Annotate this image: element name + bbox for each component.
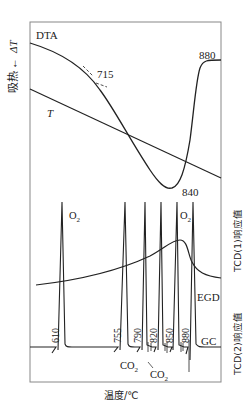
dta-label: DTA	[36, 29, 58, 41]
svg-text:ΔT: ΔT	[7, 40, 19, 54]
gc-label: GC	[201, 335, 216, 347]
peak-label-880: 880	[180, 328, 191, 343]
thermal-analysis-chart: 吸热 ← ΔT TCD(1)响应值 TCD(2)响应值 DTA T 715 88…	[0, 0, 250, 419]
o2-label-right: O2	[180, 210, 192, 224]
co2-leader	[148, 362, 153, 368]
tangent-mark	[83, 66, 93, 76]
x-axis-label: 温度/℃	[104, 389, 139, 401]
co2-label-b: CO2	[150, 369, 169, 383]
y-axis-right-lower-label: TCD(2)响应值	[232, 312, 243, 376]
gc-noise-ticks	[148, 340, 189, 372]
peak-label-820: 820	[148, 328, 159, 343]
peak-label-610: 610	[50, 328, 61, 343]
t-line	[30, 89, 221, 178]
dta-curve	[30, 43, 221, 188]
label-715: 715	[97, 68, 114, 80]
label-880-dta: 880	[199, 49, 216, 61]
svg-text:吸热: 吸热	[7, 71, 20, 93]
y-axis-left-label: 吸热 ← ΔT	[7, 40, 20, 93]
peak-label-755: 755	[112, 328, 123, 343]
label-840: 840	[182, 186, 199, 198]
co2-label-a: CO2	[120, 360, 139, 374]
svg-text:←: ←	[7, 58, 19, 69]
egd-label: EGD	[197, 291, 220, 303]
t-label: T	[47, 107, 54, 119]
peak-label-850: 850	[164, 328, 175, 343]
y-axis-right-upper-label: TCD(1)响应值	[232, 209, 243, 273]
o2-label-left: O2	[69, 210, 81, 224]
peak-label-790: 790	[132, 328, 143, 343]
